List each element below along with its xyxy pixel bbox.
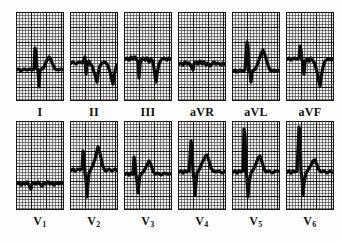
lead-panel-avf[interactable] bbox=[286, 12, 334, 101]
lead-label-avf: aVF bbox=[299, 105, 322, 119]
lead-panel-v5[interactable] bbox=[232, 121, 280, 210]
lead-label-text: V bbox=[249, 214, 258, 228]
lead-cell-v5[interactable]: V5 bbox=[232, 121, 280, 230]
lead-label-avl: aVL bbox=[244, 105, 268, 119]
lead-panel-v1[interactable] bbox=[16, 121, 64, 210]
lead-cell-avl[interactable]: aVL bbox=[232, 12, 280, 119]
lead-cell-v1[interactable]: V1 bbox=[16, 121, 64, 230]
lead-label-text: aVL bbox=[244, 105, 268, 119]
ecg-trace-path bbox=[70, 147, 118, 197]
ecg-row-limb-leads: IIIIIIaVRaVLaVF bbox=[0, 12, 342, 119]
lead-label-v2: V2 bbox=[87, 214, 100, 230]
ecg-trace-path bbox=[178, 141, 226, 195]
ecg-sheet: IIIIIIaVRaVLaVF V1V2V3V4V5V6 bbox=[0, 0, 342, 242]
lead-label-v3: V3 bbox=[141, 214, 154, 230]
ecg-trace-path bbox=[124, 57, 172, 82]
lead-label-v5: V5 bbox=[249, 214, 262, 230]
lead-cell-v3[interactable]: V3 bbox=[124, 121, 172, 230]
lead-label-subscript: 2 bbox=[96, 220, 100, 229]
lead-panel-v6[interactable] bbox=[286, 121, 334, 210]
lead-label-avr: aVR bbox=[190, 105, 214, 119]
lead-label-text: V bbox=[87, 214, 96, 228]
lead-panel-avl[interactable] bbox=[232, 12, 280, 101]
ecg-trace-ii bbox=[70, 12, 118, 101]
lead-cell-v6[interactable]: V6 bbox=[286, 121, 334, 230]
lead-label-text: V bbox=[141, 214, 150, 228]
lead-label-v1: V1 bbox=[33, 214, 46, 230]
ecg-trace-v2 bbox=[70, 121, 118, 210]
lead-label-ii: II bbox=[89, 105, 99, 119]
lead-label-text: V bbox=[195, 214, 204, 228]
lead-label-iii: III bbox=[141, 105, 156, 119]
ecg-trace-v4 bbox=[178, 121, 226, 210]
lead-label-text: II bbox=[89, 105, 99, 119]
lead-label-text: I bbox=[38, 105, 43, 119]
lead-panel-v4[interactable] bbox=[178, 121, 226, 210]
lead-label-subscript: 3 bbox=[150, 220, 154, 229]
ecg-trace-path bbox=[16, 48, 64, 87]
lead-cell-i[interactable]: I bbox=[16, 12, 64, 119]
lead-label-text: V bbox=[33, 214, 42, 228]
ecg-trace-path bbox=[232, 42, 280, 82]
lead-label-i: I bbox=[38, 105, 43, 119]
ecg-trace-i bbox=[16, 12, 64, 101]
lead-panel-iii[interactable] bbox=[124, 12, 172, 101]
lead-cell-avf[interactable]: aVF bbox=[286, 12, 334, 119]
lead-panel-ii[interactable] bbox=[70, 12, 118, 101]
lead-label-text: aVF bbox=[299, 105, 322, 119]
lead-panel-v2[interactable] bbox=[70, 121, 118, 210]
lead-label-subscript: 6 bbox=[312, 220, 316, 229]
lead-cell-ii[interactable]: II bbox=[70, 12, 118, 119]
ecg-trace-path bbox=[286, 46, 334, 86]
ecg-trace-path bbox=[70, 57, 118, 84]
lead-cell-v2[interactable]: V2 bbox=[70, 121, 118, 230]
ecg-trace-path bbox=[286, 127, 334, 195]
lead-panel-avr[interactable] bbox=[178, 12, 226, 101]
lead-label-subscript: 5 bbox=[258, 220, 262, 229]
lead-cell-iii[interactable]: III bbox=[124, 12, 172, 119]
ecg-trace-v3 bbox=[124, 121, 172, 210]
lead-label-v6: V6 bbox=[303, 214, 316, 230]
ecg-trace-path bbox=[16, 182, 64, 189]
lead-label-text: III bbox=[141, 105, 156, 119]
ecg-trace-iii bbox=[124, 12, 172, 101]
ecg-trace-avr bbox=[178, 12, 226, 101]
ecg-trace-path bbox=[232, 129, 280, 197]
lead-label-v4: V4 bbox=[195, 214, 208, 230]
lead-panel-v3[interactable] bbox=[124, 121, 172, 210]
lead-panel-i[interactable] bbox=[16, 12, 64, 101]
ecg-trace-avl bbox=[232, 12, 280, 101]
lead-label-subscript: 1 bbox=[42, 220, 46, 229]
lead-label-text: V bbox=[303, 214, 312, 228]
ecg-trace-avf bbox=[286, 12, 334, 101]
ecg-trace-v5 bbox=[232, 121, 280, 210]
ecg-row-chest-leads: V1V2V3V4V5V6 bbox=[0, 121, 342, 230]
lead-label-text: aVR bbox=[190, 105, 214, 119]
lead-cell-v4[interactable]: V4 bbox=[178, 121, 226, 230]
lead-label-subscript: 4 bbox=[204, 220, 208, 229]
ecg-trace-path bbox=[178, 61, 226, 70]
ecg-trace-path bbox=[124, 157, 172, 193]
ecg-trace-v1 bbox=[16, 121, 64, 210]
lead-cell-avr[interactable]: aVR bbox=[178, 12, 226, 119]
ecg-trace-v6 bbox=[286, 121, 334, 210]
